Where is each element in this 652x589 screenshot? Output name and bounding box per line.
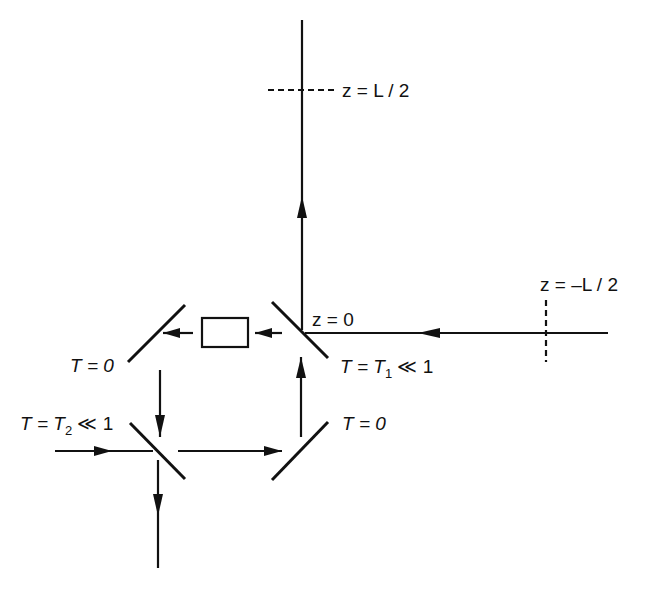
arrow-left-icon: [163, 328, 180, 338]
label-z-half: z = L / 2: [342, 80, 409, 101]
plane-z-neg-half: z = –L / 2: [540, 274, 618, 362]
arrow-right-icon: [264, 446, 282, 456]
arrow-up-icon: [296, 357, 306, 378]
plane-z-half: z = L / 2: [268, 80, 409, 101]
arrow-down-icon: [153, 494, 163, 516]
input-beam-left: [55, 446, 153, 456]
ring-cavity-diagram: z = L / 2 z = –L / 2 z = 0 T = T1 ≪ 1 T …: [0, 0, 652, 589]
intracavity-beam-right: [296, 357, 306, 437]
label-z-zero: z = 0: [312, 309, 354, 330]
label-mirror-bottom-right: T = 0: [342, 413, 386, 434]
label-mirror-top-left: T = 0: [70, 355, 114, 376]
arrow-left-icon: [255, 328, 272, 338]
intracavity-beam-bottom: [178, 446, 282, 456]
arrow-right-icon: [94, 446, 112, 456]
output-beam-down: [153, 460, 163, 568]
arrow-down-icon: [155, 415, 165, 437]
intracavity-beam-left: [155, 370, 165, 437]
arrow-left-icon: [418, 328, 440, 338]
output-beam-up: [297, 20, 307, 330]
label-mirror-top-right: T = T1 ≪ 1: [340, 356, 433, 381]
arrow-up-icon: [297, 196, 307, 218]
label-mirror-bottom-left: T = T2 ≪ 1: [20, 413, 113, 438]
nonlinear-crystal: [202, 318, 248, 347]
label-z-neg-half: z = –L / 2: [540, 274, 618, 295]
intracavity-beam-top: [163, 328, 282, 338]
